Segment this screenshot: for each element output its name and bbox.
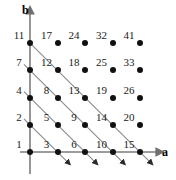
lattice-point-label: 7 xyxy=(16,57,22,68)
lattice-point-label: 12 xyxy=(41,57,52,68)
lattice-point-dot xyxy=(82,40,88,46)
lattice-point-label: 18 xyxy=(69,57,80,68)
lattice-point-dot xyxy=(82,122,88,128)
lattice-point-label: 24 xyxy=(69,30,80,41)
lattice-point-label: 10 xyxy=(96,139,107,150)
lattice-point-label: 20 xyxy=(124,111,135,122)
lattice-point-dot xyxy=(82,67,88,73)
lattice-point-label: 1 xyxy=(16,139,22,150)
lattice-point-dot xyxy=(110,40,116,46)
lattice-point-dot xyxy=(137,149,143,155)
lattice-point-dot xyxy=(110,95,116,101)
lattice-point-label: 11 xyxy=(14,30,25,41)
lattice-point-dot xyxy=(55,149,61,155)
lattice-diagram: 1361015259142048131926712182533111724324… xyxy=(0,0,176,180)
lattice-point-label: 15 xyxy=(124,139,135,150)
lattice-point-label: 9 xyxy=(71,111,77,122)
lattice-point-dot xyxy=(27,122,33,128)
lattice-point-dot xyxy=(110,67,116,73)
lattice-point-dot xyxy=(110,122,116,128)
lattice-point-label: 2 xyxy=(16,111,22,122)
lattice-point-dot xyxy=(27,40,33,46)
lattice-point-dot xyxy=(137,95,143,101)
lattice-point-dot xyxy=(27,95,33,101)
lattice-point-dot xyxy=(55,122,61,128)
lattice-point-dot xyxy=(82,95,88,101)
lattice-point-label: 26 xyxy=(124,84,135,95)
lattice-point-dot xyxy=(82,149,88,155)
lattice-point-dot xyxy=(55,67,61,73)
lattice-point-label: 3 xyxy=(44,139,50,150)
x-axis-label: a xyxy=(162,146,168,158)
lattice-point-label: 4 xyxy=(16,84,22,95)
lattice-point-label: 33 xyxy=(124,57,135,68)
lattice-point-label: 14 xyxy=(96,111,107,122)
lattice-point-label: 6 xyxy=(71,139,77,150)
lattice-point-dot xyxy=(137,40,143,46)
lattice-point-dot xyxy=(55,95,61,101)
lattice-point-label: 41 xyxy=(124,30,135,41)
lattice-point-dot xyxy=(55,40,61,46)
lattice-point-dot xyxy=(27,67,33,73)
lattice-point-label: 8 xyxy=(44,84,50,95)
y-axis-label: b xyxy=(22,4,29,16)
lattice-point-dot xyxy=(137,122,143,128)
lattice-point-label: 17 xyxy=(41,30,52,41)
lattice-point-label: 5 xyxy=(44,111,50,122)
lattice-point-label: 13 xyxy=(69,84,80,95)
lattice-point-label: 19 xyxy=(96,84,107,95)
lattice-point-label: 32 xyxy=(96,30,107,41)
lattice-point-dot xyxy=(137,67,143,73)
lattice-point-dot xyxy=(110,149,116,155)
lattice-point-dot xyxy=(27,149,33,155)
lattice-point-label: 25 xyxy=(96,57,107,68)
